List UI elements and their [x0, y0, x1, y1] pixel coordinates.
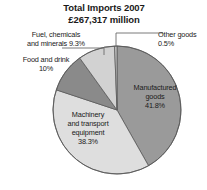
slice-label-machinery-and-transport-equipment: Machinery and transport equipment 38.3%: [55, 110, 121, 146]
slice-label-fuel-line-1: Fuel, chemicals: [2, 30, 110, 39]
slice-label-other-line-2: 0.5%: [158, 39, 207, 48]
slice-label-fuel-line-2: and minerals 9.3%: [2, 39, 110, 48]
slice-label-other-line-1: Other goods: [158, 30, 207, 39]
slice-label-fuel-chemicals-and-minerals: Fuel, chemicals and minerals 9.3%: [2, 30, 110, 48]
slice-label-manufactured-line-2: goods: [124, 92, 186, 101]
pie-chart-figure: Total Imports 2007 £267,317 million Fuel…: [0, 0, 207, 190]
slice-label-manufactured-line-3: 41.8%: [124, 101, 186, 110]
slice-label-food-and-drink: Food and drink 10%: [2, 55, 90, 73]
slice-label-machinery-line-2: and transport: [55, 119, 121, 128]
slice-label-food-line-2: 10%: [2, 64, 90, 73]
slice-label-machinery-line-4: 38.3%: [55, 137, 121, 146]
slice-label-machinery-line-3: equipment: [55, 128, 121, 137]
slice-label-food-line-1: Food and drink: [2, 55, 90, 64]
slice-label-manufactured-line-1: Manufactured: [124, 83, 186, 92]
slice-label-machinery-line-1: Machinery: [55, 110, 121, 119]
slice-label-manufactured-goods: Manufactured goods 41.8%: [124, 83, 186, 110]
slice-label-other-goods: Other goods 0.5%: [158, 30, 207, 48]
leader-line-other-goods: [116, 33, 163, 46]
